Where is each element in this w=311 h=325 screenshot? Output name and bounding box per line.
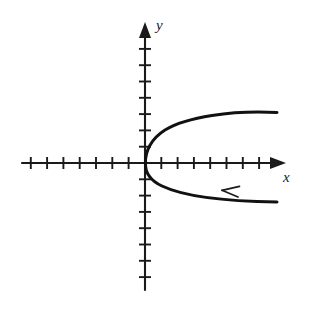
parabola-curve-group	[145, 112, 277, 202]
parabola-upper-branch	[145, 112, 277, 163]
direction-arrow-barb-lower	[222, 190, 238, 197]
axis-label-x: x	[283, 170, 290, 185]
graph-figure: y x	[0, 0, 311, 325]
axes-group	[22, 22, 286, 290]
x-axis-arrowhead-icon	[270, 157, 286, 169]
y-axis-arrowhead-icon	[139, 22, 151, 38]
direction-arrow-barb-upper	[222, 186, 240, 190]
parabola-lower-branch	[145, 163, 277, 202]
parabola-plot	[0, 0, 311, 325]
axis-label-y: y	[156, 18, 163, 33]
direction-arrow	[222, 186, 240, 197]
